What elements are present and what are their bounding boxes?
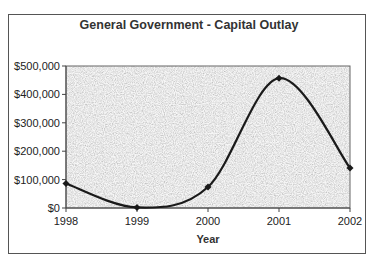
y-tick-label: $400,000 (14, 88, 60, 100)
x-tick-label: 2001 (267, 215, 291, 227)
chart-svg: $0$100,000$200,000$300,000$400,000$500,0… (0, 0, 378, 263)
y-tick-label: $0 (48, 202, 60, 214)
x-tick-label: 1999 (125, 215, 149, 227)
x-axis: 19981999200020012002 (54, 208, 362, 227)
y-tick-label: $100,000 (14, 174, 60, 186)
y-tick-label: $200,000 (14, 145, 60, 157)
y-tick-label: $300,000 (14, 117, 60, 129)
x-axis-title: Year (196, 233, 220, 245)
x-tick-label: 2000 (196, 215, 220, 227)
x-tick-label: 1998 (54, 215, 78, 227)
x-tick-label: 2002 (338, 215, 362, 227)
y-tick-label: $500,000 (14, 60, 60, 72)
y-axis: $0$100,000$200,000$300,000$400,000$500,0… (14, 60, 66, 214)
